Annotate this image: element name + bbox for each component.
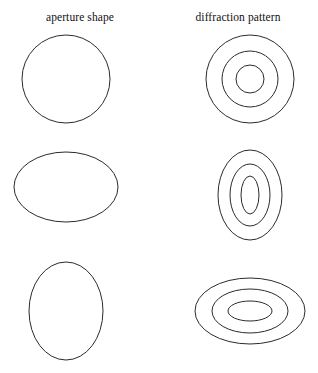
aperture-wide-ellipse-shape: [14, 152, 118, 222]
diffraction-ring-inner: [241, 176, 259, 214]
diffraction-ring-outer: [206, 35, 294, 123]
diffraction-ring-middle: [212, 289, 288, 333]
diffraction-ring-middle: [230, 164, 270, 226]
diffraction-figure: aperture shape diffraction pattern: [0, 0, 318, 373]
diffraction-ring-middle: [222, 51, 278, 107]
column-header-diffraction-pattern: diffraction pattern: [158, 11, 318, 24]
cell-aperture-row-circular: [0, 28, 158, 132]
cell-aperture-row-wide: [0, 145, 158, 235]
cell-pattern-row-tall: [158, 272, 318, 352]
cell-pattern-row-circular: [158, 28, 318, 132]
aperture-circle-shape: [22, 35, 110, 123]
column-header-aperture-shape: aperture shape: [0, 11, 160, 24]
diffraction-ring-inner: [228, 301, 272, 321]
cell-aperture-row-tall: [0, 260, 158, 364]
aperture-tall-ellipse-shape: [29, 262, 103, 360]
cell-pattern-row-wide: [158, 145, 318, 245]
diffraction-ring-inner: [236, 65, 264, 93]
